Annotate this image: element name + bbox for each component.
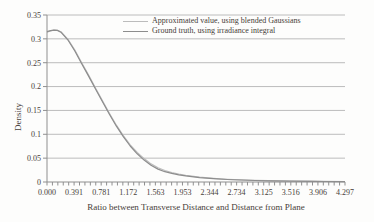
series-line-approximated [47, 30, 345, 181]
legend: Approximated value, using blended Gaussi… [123, 16, 301, 36]
legend-label-approximated: Approximated value, using blended Gaussi… [152, 16, 301, 26]
y-tick-label: 0.1 [31, 130, 41, 139]
x-tick-label: 4.297 [336, 188, 354, 197]
x-tick-label: 0.391 [65, 188, 83, 197]
y-tick-label: 0.2 [31, 82, 41, 91]
x-tick-label: 2.734 [228, 188, 246, 197]
y-tick-label: 0.25 [27, 59, 41, 68]
x-tick-label: 1.953 [173, 188, 191, 197]
x-tick-label: 1.172 [119, 188, 137, 197]
x-tick-label: 0.000 [38, 188, 56, 197]
x-tick-label: 3.125 [255, 188, 273, 197]
x-tick-label: 3.906 [309, 188, 327, 197]
y-axis-title: Density [12, 87, 24, 147]
series-line-ground-truth [47, 30, 345, 182]
y-tick-label: 0.3 [31, 35, 41, 44]
x-axis-title: Ratio between Transverse Distance and Di… [47, 202, 345, 213]
x-tick-label: 3.516 [282, 188, 300, 197]
y-tick-label: 0.35 [27, 11, 41, 20]
legend-label-ground-truth: Ground truth, using irradiance integral [152, 26, 275, 36]
y-tick-label: 0 [37, 178, 41, 187]
legend-item-approximated: Approximated value, using blended Gaussi… [123, 16, 301, 26]
y-tick-label: 0.15 [27, 106, 41, 115]
x-tick-label: 2.344 [201, 188, 219, 197]
y-tick-label: 0.05 [27, 154, 41, 163]
chart-figure: 0.350.30.250.20.150.10.0500.0000.3910.78… [0, 0, 374, 222]
legend-line-ground-truth-icon [123, 31, 148, 32]
legend-item-ground-truth: Ground truth, using irradiance integral [123, 26, 301, 36]
x-tick-label: 1.563 [146, 188, 164, 197]
legend-line-approximated-icon [123, 21, 148, 22]
x-tick-label: 0.781 [92, 188, 110, 197]
